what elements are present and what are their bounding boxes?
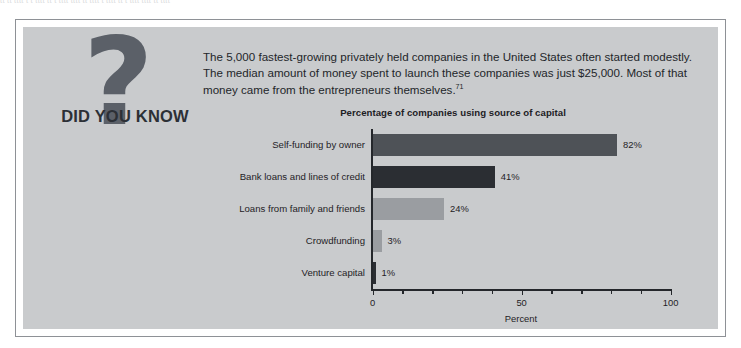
bar-category-label: Crowdfunding bbox=[203, 225, 365, 257]
bar-chart: Percentage of companies using source of … bbox=[203, 107, 703, 322]
x-axis-tick-label: 0 bbox=[370, 297, 375, 308]
chart-bar bbox=[373, 134, 617, 156]
bar-value-label: 41% bbox=[501, 161, 520, 193]
page-top-text-remnant: tt tt tttt t t tttt tt t tttt tttt tt tt… bbox=[0, 0, 741, 12]
bar-value-label: 82% bbox=[623, 129, 642, 161]
footnote-marker: 71 bbox=[456, 82, 464, 91]
x-axis-tick-label: 50 bbox=[516, 297, 526, 308]
bar-category-label: Self-funding by owner bbox=[203, 129, 365, 161]
x-axis-tick bbox=[641, 289, 642, 294]
chart-bar-row: Self-funding by owner82% bbox=[203, 129, 703, 161]
did-you-know-badge: ? DID YOU KNOW bbox=[45, 29, 205, 164]
chart-bar bbox=[373, 230, 382, 252]
chart-bar bbox=[373, 198, 445, 220]
x-axis-tick bbox=[581, 289, 582, 294]
bar-category-label: Bank loans and lines of credit bbox=[203, 161, 365, 193]
bar-value-label: 24% bbox=[450, 193, 469, 225]
x-axis-tick bbox=[373, 289, 374, 295]
callout-body-sentence: The 5,000 fastest-growing privately held… bbox=[203, 50, 692, 96]
x-axis-tick bbox=[432, 289, 433, 294]
did-you-know-label: DID YOU KNOW bbox=[45, 107, 205, 126]
chart-bar bbox=[373, 166, 495, 188]
bar-value-label: 3% bbox=[388, 225, 402, 257]
chart-plot-area: Percent Self-funding by owner82%Bank loa… bbox=[203, 129, 703, 289]
chart-bar-row: Crowdfunding3% bbox=[203, 225, 703, 257]
x-axis-tick bbox=[492, 289, 493, 294]
bar-category-label: Loans from family and friends bbox=[203, 193, 365, 225]
chart-bar-row: Bank loans and lines of credit41% bbox=[203, 161, 703, 193]
x-axis-tick bbox=[551, 289, 552, 294]
x-axis-label: Percent bbox=[371, 313, 671, 324]
x-axis-tick bbox=[402, 289, 403, 294]
callout-body-text: The 5,000 fastest-growing privately held… bbox=[203, 49, 711, 98]
bar-category-label: Venture capital bbox=[203, 257, 365, 289]
x-axis-tick bbox=[671, 289, 672, 295]
chart-bar-row: Loans from family and friends24% bbox=[203, 193, 703, 225]
bar-value-label: 1% bbox=[382, 257, 396, 289]
x-axis-tick bbox=[522, 289, 523, 295]
figure-frame: ? DID YOU KNOW The 5,000 fastest-growing… bbox=[15, 19, 726, 337]
chart-bar bbox=[373, 262, 376, 284]
did-you-know-panel: ? DID YOU KNOW The 5,000 fastest-growing… bbox=[23, 27, 718, 329]
x-axis-tick bbox=[462, 289, 463, 294]
chart-bar-row: Venture capital1% bbox=[203, 257, 703, 289]
x-axis-tick-label: 100 bbox=[663, 297, 679, 308]
x-axis-tick bbox=[611, 289, 612, 294]
chart-title: Percentage of companies using source of … bbox=[203, 107, 703, 118]
